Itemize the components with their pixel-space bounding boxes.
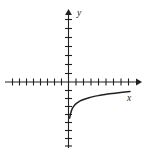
graph-figure: x y bbox=[0, 0, 146, 156]
function-curve bbox=[70, 91, 130, 118]
x-axis-label: x bbox=[126, 93, 132, 103]
y-axis-label: y bbox=[76, 8, 82, 18]
y-axis-arrowhead-icon bbox=[65, 9, 72, 15]
coordinate-plane-svg: x y bbox=[0, 0, 146, 156]
x-axis-arrowhead-icon bbox=[136, 79, 142, 86]
